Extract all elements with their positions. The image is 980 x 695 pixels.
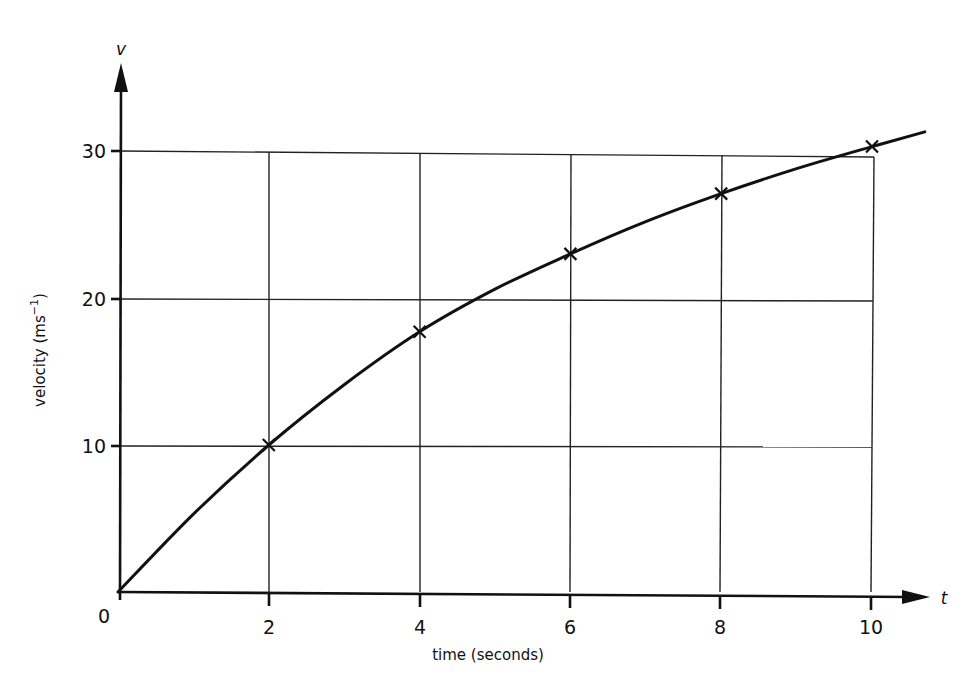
x-axis xyxy=(118,592,912,597)
y-tick-label-30: 30 xyxy=(82,140,106,162)
x-tick-label-4: 4 xyxy=(414,616,426,638)
origin-label: 0 xyxy=(98,605,110,627)
y-tick-label-20: 20 xyxy=(82,288,106,310)
x-axis-symbol: t xyxy=(941,588,949,608)
y-axis-symbol: v xyxy=(116,39,127,59)
x-tick-label-6: 6 xyxy=(564,616,576,638)
velocity-curve xyxy=(118,132,925,592)
ticks xyxy=(111,151,871,610)
y-tick-label-10: 10 xyxy=(82,435,106,457)
x-tick-label-10: 10 xyxy=(859,616,883,638)
axes xyxy=(118,80,912,600)
y-axis-title-close: ) xyxy=(31,293,49,299)
gridline-y-30 xyxy=(120,151,874,157)
x-tick-label-2: 2 xyxy=(263,616,275,638)
y-axis-title-main: velocity (ms xyxy=(31,315,49,407)
y-axis-title: velocity (ms−1) xyxy=(28,293,49,407)
grid xyxy=(120,151,874,592)
gridline-y-10 xyxy=(120,446,872,447)
gridline-y-20 xyxy=(120,299,873,301)
y-axis xyxy=(120,80,121,600)
y-axis-arrow-icon xyxy=(114,63,128,92)
gridline-x-8 xyxy=(720,155,722,592)
gridline-x-10 xyxy=(871,157,874,592)
x-axis-arrow-icon xyxy=(902,590,930,604)
gridline-x-6 xyxy=(570,154,571,592)
velocity-time-chart: 0 2 4 6 8 10 10 20 30 time (seconds) vel… xyxy=(0,0,980,695)
y-axis-title-superscript: −1 xyxy=(28,299,41,315)
x-axis-title: time (seconds) xyxy=(432,646,544,664)
x-tick-label-8: 8 xyxy=(714,616,726,638)
svg-text:velocity (ms−1): velocity (ms−1) xyxy=(28,293,49,407)
